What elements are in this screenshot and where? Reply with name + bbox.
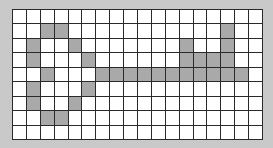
grid-cell-filled — [27, 39, 40, 52]
grid-cell — [166, 53, 179, 66]
grid-cell-filled — [55, 111, 68, 124]
grid-cell — [166, 97, 179, 110]
grid-cell — [207, 24, 220, 37]
grid-cell — [110, 10, 123, 23]
grid-cell-filled — [207, 68, 220, 81]
grid-cell — [152, 82, 165, 95]
grid-cell — [27, 126, 40, 139]
grid-cell — [69, 53, 82, 66]
grid-cell-filled — [180, 68, 193, 81]
grid-cell — [180, 24, 193, 37]
grid-cell — [235, 39, 248, 52]
grid-cell — [235, 24, 248, 37]
grid-cell-filled — [221, 39, 234, 52]
grid-cell — [124, 97, 137, 110]
grid-cell — [180, 10, 193, 23]
grid-cell — [55, 97, 68, 110]
grid-cell-filled — [138, 68, 151, 81]
grid-cell — [96, 24, 109, 37]
grid-cell — [138, 111, 151, 124]
grid-cell — [110, 24, 123, 37]
grid-cell — [138, 53, 151, 66]
grid-cell — [55, 68, 68, 81]
grid-cell — [96, 126, 109, 139]
grid-cell — [138, 126, 151, 139]
grid-cell — [235, 82, 248, 95]
grid-cell-filled — [27, 82, 40, 95]
grid-cell — [96, 111, 109, 124]
grid-cell — [82, 126, 95, 139]
grid-cell — [13, 97, 26, 110]
grid-cell — [124, 24, 137, 37]
grid-cell — [69, 111, 82, 124]
grid-cell — [69, 68, 82, 81]
grid-cell-filled — [41, 24, 54, 37]
grid-cell — [180, 126, 193, 139]
grid-cell — [138, 24, 151, 37]
grid-cell-filled — [194, 53, 207, 66]
grid-cell — [166, 10, 179, 23]
grid-cell — [82, 97, 95, 110]
grid-cell — [110, 82, 123, 95]
grid-cell — [110, 39, 123, 52]
grid-cell — [13, 111, 26, 124]
grid-cell-filled — [166, 68, 179, 81]
grid-cell — [207, 39, 220, 52]
grid-cell — [124, 39, 137, 52]
grid-cell — [249, 39, 262, 52]
grid-cell — [124, 53, 137, 66]
grid-cell-filled — [27, 53, 40, 66]
grid-cell — [69, 10, 82, 23]
grid-cell — [221, 97, 234, 110]
grid-cell — [13, 39, 26, 52]
grid-cell — [166, 82, 179, 95]
grid-cell — [96, 10, 109, 23]
grid-cell-filled — [207, 53, 220, 66]
grid-cell-filled — [110, 68, 123, 81]
grid-cell — [194, 97, 207, 110]
grid-cell — [96, 82, 109, 95]
grid-cell — [152, 10, 165, 23]
grid-cell-filled — [221, 24, 234, 37]
grid-cell — [249, 82, 262, 95]
grid-cell — [124, 10, 137, 23]
grid-cell — [110, 53, 123, 66]
grid-cell-filled — [41, 111, 54, 124]
grid-cell — [110, 111, 123, 124]
grid-cell — [249, 126, 262, 139]
grid-cell — [110, 126, 123, 139]
grid-cell — [82, 68, 95, 81]
grid-cell — [194, 24, 207, 37]
grid-cell — [96, 53, 109, 66]
grid-cell-filled — [82, 82, 95, 95]
grid-cell — [249, 68, 262, 81]
grid-cell-filled — [235, 68, 248, 81]
grid-cell — [207, 97, 220, 110]
grid-cell — [166, 111, 179, 124]
grid-cell — [207, 111, 220, 124]
grid-cell — [13, 53, 26, 66]
grid-cell — [138, 82, 151, 95]
grid-cell — [235, 53, 248, 66]
grid-cell — [194, 39, 207, 52]
grid-cell — [166, 39, 179, 52]
grid-cell — [235, 10, 248, 23]
grid-cell — [96, 97, 109, 110]
grid-cell-filled — [180, 39, 193, 52]
grid-cell-filled — [27, 97, 40, 110]
grid-cell — [180, 111, 193, 124]
grid-cell — [249, 10, 262, 23]
grid-cell — [138, 10, 151, 23]
grid-cell — [82, 39, 95, 52]
grid-cell — [55, 82, 68, 95]
grid-cell — [69, 82, 82, 95]
grid-cell — [27, 68, 40, 81]
grid-cell — [41, 82, 54, 95]
grid-cell — [221, 82, 234, 95]
grid-cell — [55, 53, 68, 66]
grid-cell — [194, 111, 207, 124]
grid-cell — [138, 97, 151, 110]
grid-cell — [152, 126, 165, 139]
grid-cell — [152, 24, 165, 37]
grid-cell — [13, 24, 26, 37]
